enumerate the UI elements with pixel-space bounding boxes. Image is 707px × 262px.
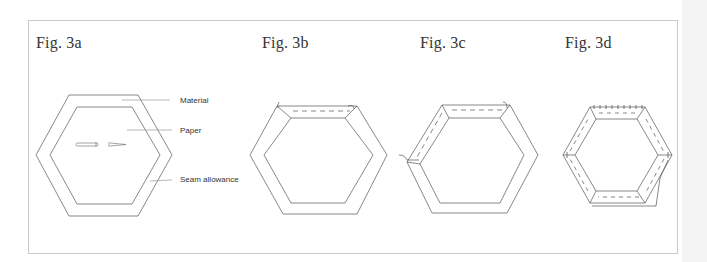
- callout-seam-allowance: Seam allowance: [180, 175, 239, 184]
- fig-3d-drawing: [563, 105, 672, 206]
- hexagon-diagrams: [0, 0, 707, 262]
- callout-paper: Paper: [180, 126, 201, 135]
- fig-3c-drawing: [399, 102, 538, 213]
- pin-icons: [76, 142, 126, 147]
- fig-3a-drawing: [36, 95, 172, 216]
- paper-hexagon: [50, 107, 160, 204]
- callout-material: Material: [180, 96, 208, 105]
- fig-3b-drawing: [250, 102, 387, 214]
- material-hexagon: [36, 95, 172, 216]
